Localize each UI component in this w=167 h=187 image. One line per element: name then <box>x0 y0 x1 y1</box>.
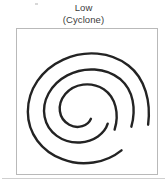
spiral-arm-middle <box>44 69 134 142</box>
symbol-frame <box>16 28 158 175</box>
low-cyclone-figure: Low (Cyclone) <box>0 0 167 187</box>
caption-line-secondary: (Cyclone) <box>0 14 167 26</box>
figure-caption: Low (Cyclone) <box>0 2 167 25</box>
caption-line-primary: Low <box>0 2 167 14</box>
cyclone-spiral-icon <box>17 29 157 174</box>
bottom-divider <box>2 178 165 179</box>
